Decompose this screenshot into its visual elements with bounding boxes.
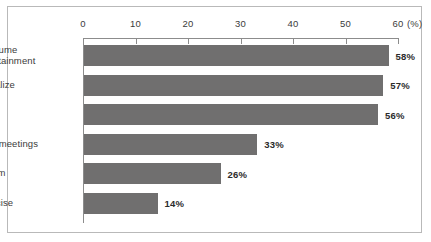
axis-tick-label: 50: [340, 18, 351, 29]
bar-value-label: 58%: [396, 50, 416, 61]
category-label: Host meetings: [0, 139, 76, 150]
category-label: Socialize: [0, 80, 76, 91]
axis-tick-label: 60: [393, 18, 404, 29]
bar-value-label: 14%: [165, 198, 185, 209]
axis-tick-label: 30: [235, 18, 246, 29]
bar-row: Consume entertainment58%: [8, 45, 423, 66]
axis-tick: [346, 39, 347, 44]
bar: [84, 163, 221, 184]
axis-tick: [293, 39, 294, 44]
axis-unit-label: (%): [407, 18, 422, 29]
bar: [84, 193, 158, 214]
axis-tick-label: 40: [288, 18, 299, 29]
bar-row: Host meetings33%: [8, 134, 423, 155]
bar-value-label: 33%: [264, 139, 284, 150]
category-label: Groom: [0, 168, 76, 179]
axis-tick: [188, 39, 189, 44]
axis-tick-label: 10: [130, 18, 141, 29]
bar-row: Groom26%: [8, 163, 423, 184]
bar-row: Exercise14%: [8, 193, 423, 214]
category-label: Work: [0, 109, 76, 120]
bar: [84, 45, 389, 66]
bar-value-label: 56%: [385, 109, 405, 120]
category-label: Consume entertainment: [0, 45, 76, 66]
axis-tick: [241, 39, 242, 44]
category-label: Exercise: [0, 198, 76, 209]
bar-value-label: 57%: [390, 80, 410, 91]
bar: [84, 75, 383, 96]
axis-tick-label: 0: [80, 18, 85, 29]
axis-tick-label: 20: [183, 18, 194, 29]
bar-row: Socialize57%: [8, 75, 423, 96]
bar: [84, 104, 378, 125]
bar-value-label: 26%: [228, 168, 248, 179]
axis-tick: [83, 39, 84, 44]
bar: [84, 134, 257, 155]
chart-frame: 0102030405060(%) Consume entertainment58…: [7, 6, 422, 233]
axis-tick: [136, 39, 137, 44]
axis-tick: [398, 39, 399, 44]
plot-area: 0102030405060(%) Consume entertainment58…: [8, 7, 421, 232]
bar-row: Work56%: [8, 104, 423, 125]
